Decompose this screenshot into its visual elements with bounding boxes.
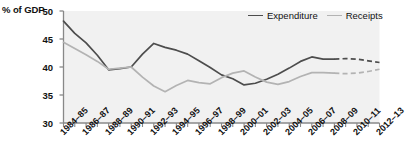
legend-line-icon: [327, 15, 342, 16]
plot-background: [64, 11, 380, 123]
legend-item[interactable]: Expenditure: [248, 10, 318, 21]
legend-line-icon: [248, 15, 263, 16]
legend-item[interactable]: Receipts: [327, 10, 383, 21]
chart-legend: ExpenditureReceipts: [248, 10, 383, 21]
legend-label: Expenditure: [267, 10, 318, 21]
legend-label: Receipts: [346, 10, 383, 21]
